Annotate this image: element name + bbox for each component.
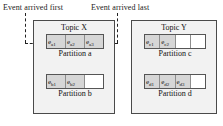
partition-a-label: Partition a <box>40 49 110 58</box>
event-cell <box>85 75 103 88</box>
topic-box-y: Topic Y ec1ec2 Partition c ed1ed2ed3 Par… <box>131 20 217 114</box>
event-cell: ea3 <box>85 35 103 48</box>
event-cell <box>191 75 205 88</box>
event-label: ea1 <box>48 38 56 47</box>
event-label: eb1 <box>48 78 56 87</box>
event-cell: ec2 <box>160 35 175 48</box>
event-label: ea3 <box>86 38 94 47</box>
event-label: ed1 <box>146 78 154 87</box>
diagram-canvas: Event arrived first Event arrived last T… <box>0 0 223 126</box>
event-cell <box>191 35 205 48</box>
dashed-line-right-vertical <box>117 13 118 43</box>
partition-c-label: Partition c <box>138 49 212 58</box>
dashed-line-left-vertical <box>25 13 26 43</box>
caption-event-arrived-first: Event arrived first <box>3 3 63 12</box>
event-label: ea2 <box>67 38 75 47</box>
event-label: ed3 <box>177 78 185 87</box>
partition-b-cells: eb1eb2 <box>46 74 104 89</box>
topic-title-x: Topic X <box>34 23 114 33</box>
partition-a: ea1ea2ea3 Partition a <box>46 34 104 49</box>
topic-box-x: Topic X ea1ea2ea3 Partition a eb1eb2 Par… <box>33 20 115 114</box>
event-label: eb2 <box>67 78 75 87</box>
event-cell: ed1 <box>145 75 160 88</box>
partition-c-cells: ec1ec2 <box>144 34 206 49</box>
partition-d-label: Partition d <box>138 89 212 98</box>
partition-c: ec1ec2 Partition c <box>144 34 206 49</box>
event-cell: eb1 <box>47 75 66 88</box>
event-cell: eb2 <box>66 75 85 88</box>
event-label: ec2 <box>161 38 169 47</box>
partition-d-cells: ed1ed2ed3 <box>144 74 206 89</box>
event-cell: ed2 <box>160 75 175 88</box>
event-cell: ec1 <box>145 35 160 48</box>
caption-event-arrived-last: Event arrived last <box>91 3 149 12</box>
partition-b-label: Partition b <box>40 89 110 98</box>
event-cell: ed3 <box>176 75 191 88</box>
partition-b: eb1eb2 Partition b <box>46 74 104 89</box>
event-cell <box>176 35 191 48</box>
partition-a-cells: ea1ea2ea3 <box>46 34 104 49</box>
event-cell: ea2 <box>66 35 85 48</box>
topic-title-y: Topic Y <box>132 23 216 33</box>
partition-d: ed1ed2ed3 Partition d <box>144 74 206 89</box>
event-cell: ea1 <box>47 35 66 48</box>
event-label: ec1 <box>146 38 154 47</box>
event-label: ed2 <box>161 78 169 87</box>
